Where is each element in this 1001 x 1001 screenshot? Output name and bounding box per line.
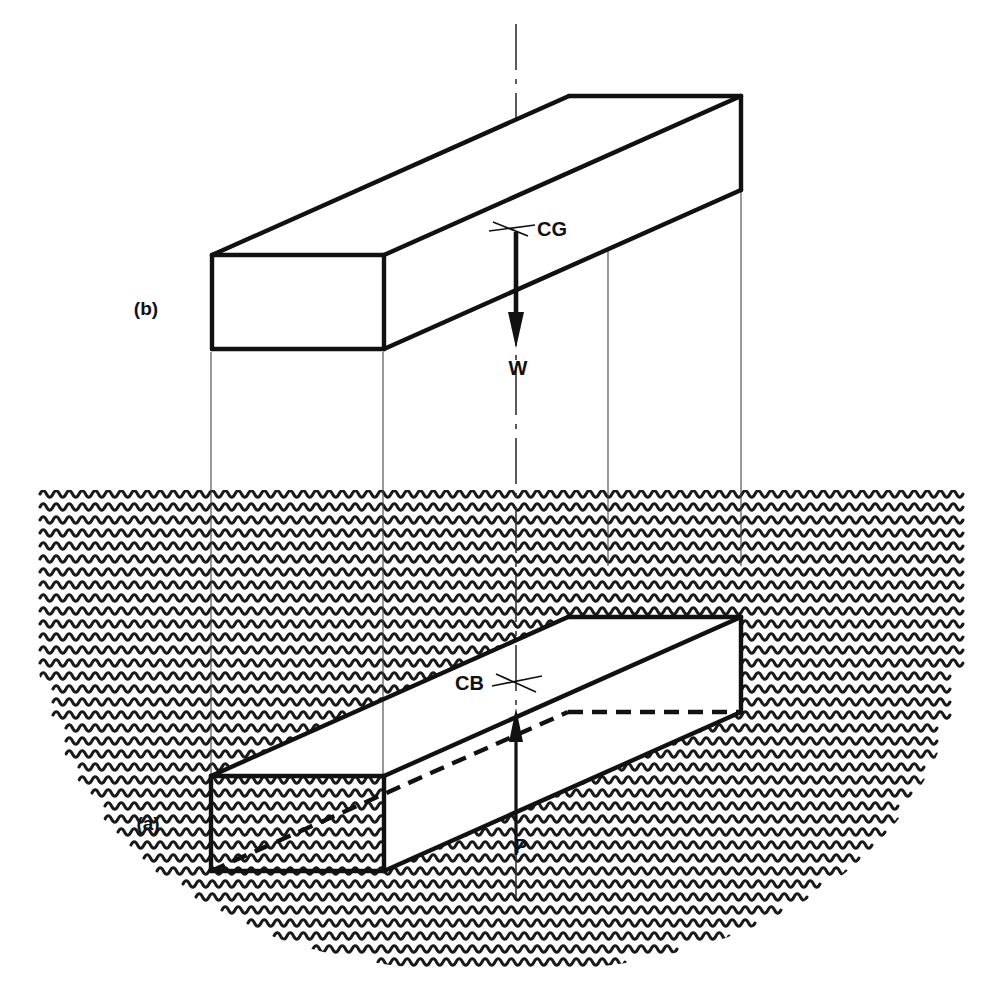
cg-label: CG [537,218,567,240]
block-above-water [212,96,741,349]
water-wave-rows [40,491,963,965]
water-region [40,491,963,965]
buoyancy-diagram: CG CB W P (b) (a) [0,0,1001,1001]
weight-label: W [509,357,528,379]
panel-a-label: (a) [136,813,159,834]
figure-canvas: CG CB W P (b) (a) [0,0,1001,1001]
buoyancy-label: P [514,835,527,857]
panel-b-label: (b) [134,298,158,319]
block-b-front-face [212,255,384,349]
cb-label: CB [455,672,484,694]
